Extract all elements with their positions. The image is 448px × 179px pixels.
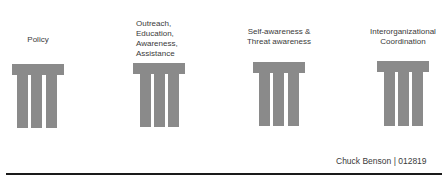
pillar-column bbox=[168, 74, 179, 127]
pillar-column bbox=[259, 73, 270, 126]
author-credit: Chuck Benson | 012819 bbox=[336, 156, 427, 166]
label-line: Interorganizational bbox=[363, 27, 443, 37]
pillar-column bbox=[17, 75, 28, 128]
label-line: Education, bbox=[136, 29, 184, 39]
pillar-icon-awareness bbox=[253, 62, 305, 126]
pillar-label-coordination: Interorganizational Coordination bbox=[363, 27, 443, 47]
pillar-cap bbox=[253, 62, 305, 73]
label-line: Threat awareness bbox=[239, 37, 319, 47]
label-line: Outreach, bbox=[136, 19, 184, 29]
pillar-column bbox=[412, 72, 423, 126]
pillar-column bbox=[384, 72, 395, 126]
pillar-column bbox=[140, 74, 151, 127]
pillar-column bbox=[31, 75, 42, 128]
pillar-label-policy: Policy bbox=[18, 35, 58, 45]
footer-divider bbox=[6, 173, 442, 175]
pillar-column bbox=[46, 75, 57, 128]
pillar-cap bbox=[133, 63, 185, 74]
pillar-column bbox=[154, 74, 165, 127]
pillar-cap bbox=[12, 64, 64, 75]
pillar-label-awareness: Self-awareness & Threat awareness bbox=[239, 27, 319, 47]
label-line: Assistance bbox=[136, 49, 184, 59]
pillar-label-outreach: Outreach, Education, Awareness, Assistan… bbox=[136, 19, 184, 59]
label-line: Coordination bbox=[363, 37, 443, 47]
label-text: Policy bbox=[27, 35, 48, 44]
pillar-column bbox=[288, 73, 299, 126]
pillar-cap bbox=[377, 61, 429, 72]
label-line: Awareness, bbox=[136, 39, 184, 49]
label-line: Self-awareness & bbox=[239, 27, 319, 37]
pillar-column bbox=[398, 72, 409, 126]
pillar-icon-coordination bbox=[377, 61, 429, 126]
pillar-icon-outreach bbox=[133, 63, 185, 127]
pillar-column bbox=[273, 73, 284, 126]
credit-text: Chuck Benson | 012819 bbox=[336, 156, 427, 166]
pillar-icon-policy bbox=[12, 64, 64, 128]
